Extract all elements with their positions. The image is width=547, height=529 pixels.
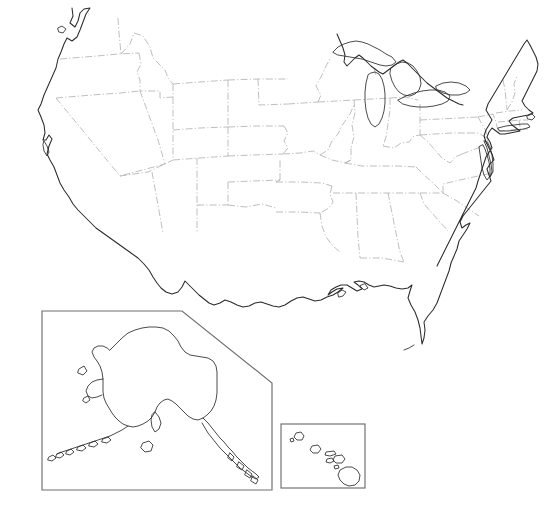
hawaii-inset-frame bbox=[281, 424, 365, 488]
hawaii-islands bbox=[290, 432, 360, 486]
alaska-inset bbox=[42, 311, 272, 490]
united-states-map-graphic bbox=[0, 0, 547, 529]
map-canvas bbox=[0, 0, 547, 529]
alaska-landmass bbox=[48, 327, 259, 484]
alaska-inset-frame bbox=[42, 311, 272, 490]
hawaii-inset bbox=[281, 424, 365, 488]
